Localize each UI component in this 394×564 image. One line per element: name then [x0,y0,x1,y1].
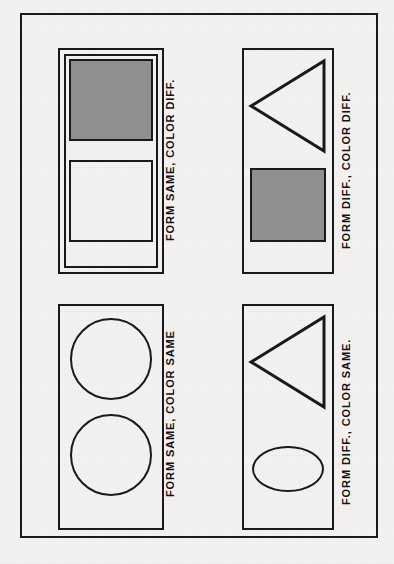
white-square-shape [69,160,153,242]
caption-form-same-color-same: FORM SAME, COLOR SAME [165,330,176,497]
stimulus-panel-form-diff-color-same [242,304,334,530]
caption-form-diff-color-same: FORM DIFF., COLOR SAME. [341,339,352,505]
caption-form-same-color-diff: FORM SAME, COLOR DIFF. [165,79,176,241]
white-circle-shape-upper [70,318,152,400]
stimulus-panel-form-diff-color-diff [242,48,334,274]
white-triangle-shape [246,312,330,412]
white-circle-shape-lower [70,414,152,496]
white-ellipse-shape [252,446,324,492]
white-triangle-shape [246,56,330,156]
gray-square-shape [69,59,153,141]
figure-outer-border [20,13,378,538]
stimulus-panel-form-same-color-same [58,304,164,530]
scanned-figure-page: FORM SAME, COLOR DIFF. FORM DIFF., COLOR… [0,0,394,564]
gray-square-shape [250,168,326,242]
stimulus-panel-form-same-color-diff [58,48,164,274]
caption-form-diff-color-diff: FORM DIFF., COLOR DIFF. [341,91,352,249]
